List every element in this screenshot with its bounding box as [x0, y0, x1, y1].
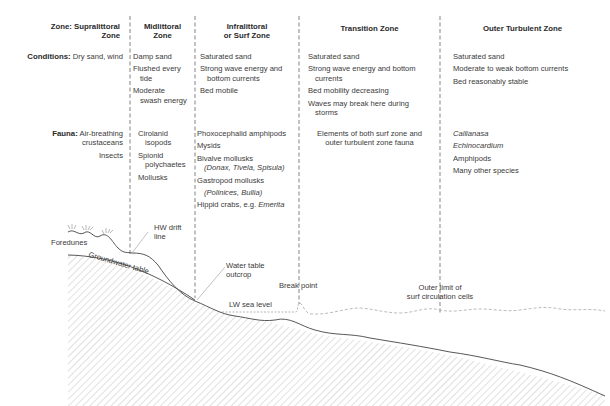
- zone-header-transition: Transition Zone: [299, 24, 440, 33]
- fauna-infralittoral: Phoxocephalid amphipods Mysids Bivalve m…: [197, 129, 286, 210]
- conditions-transition: Saturated sand Strong wave energy and bo…: [308, 52, 416, 117]
- label-water-table-outcrop: Water table outcrop: [226, 261, 265, 280]
- sediment-hatch: [68, 255, 605, 406]
- label-lw-sea-level: LW sea level: [229, 300, 272, 309]
- conditions-supralittoral: Conditions: Dry sand, wind: [5, 52, 123, 61]
- conditions-outer-turbulent: Saturated sand Moderate to weak bottom c…: [453, 52, 568, 86]
- zone-header-midlittoral: Midlittoral Zone: [130, 22, 195, 41]
- fauna-transition: Elements of both surf zone and outer tur…: [302, 129, 437, 148]
- label-foredunes: Foredunes: [51, 238, 87, 247]
- hw-drift-leader: [132, 232, 148, 253]
- zone-header-infralittoral: Infralittoral or Surf Zone: [195, 22, 299, 41]
- label-hw-drift-line: HW drift line: [154, 223, 181, 242]
- fauna-outer-turbulent: Callianasa Echinocardium Amphipods Many …: [453, 129, 519, 176]
- conditions-infralittoral: Saturated sand Strong wave energy and bo…: [200, 52, 282, 96]
- label-outer-limit: Outer limit of surf circulation cells: [390, 283, 490, 302]
- fauna-midlittoral: Cirolanid isopods Spionid polychaetes Mo…: [138, 129, 186, 182]
- water-surface-waves: [300, 303, 605, 314]
- conditions-midlittoral: Damp sand Flushed every tide Moderate sw…: [133, 52, 187, 105]
- fauna-supralittoral: Fauna: Air-breathing crustaceans Insects: [5, 129, 123, 160]
- zone-header-outer-turbulent: Outer Turbulent Zone: [440, 24, 605, 33]
- zone-prefix: Zone:: [51, 22, 72, 31]
- label-break-point: Break point: [279, 281, 317, 290]
- water-table-leader: [197, 267, 225, 300]
- dune-vegetation: [68, 224, 113, 234]
- conditions-prefix: Conditions:: [27, 52, 70, 61]
- zone-header-supralittoral: Zone: Supralittoral Zone: [10, 22, 120, 41]
- fauna-prefix: Fauna:: [52, 129, 78, 138]
